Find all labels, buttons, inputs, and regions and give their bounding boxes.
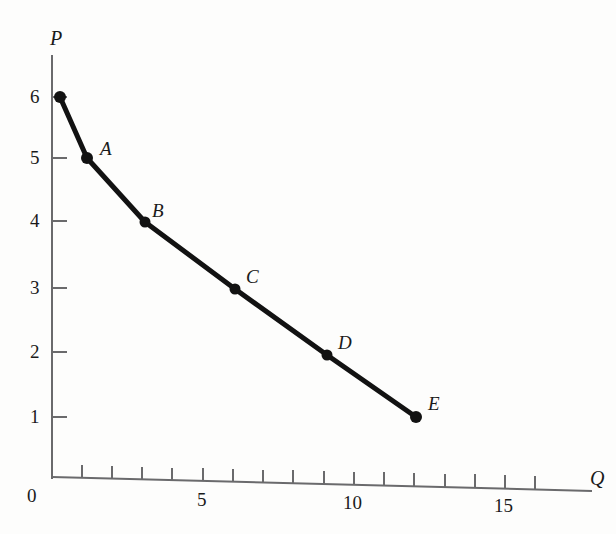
point-label-d: D bbox=[338, 333, 352, 352]
y-tick-label-2: 2 bbox=[30, 342, 40, 361]
y-axis-title: P bbox=[50, 28, 62, 48]
y-tick-label-6: 6 bbox=[30, 87, 40, 106]
data-point-a bbox=[81, 152, 93, 164]
x-tick-label-10: 10 bbox=[343, 493, 362, 512]
chart-canvas bbox=[0, 0, 616, 534]
x-axis-line bbox=[52, 477, 592, 491]
x-axis-title: Q bbox=[590, 468, 604, 488]
y-tick-label-1: 1 bbox=[30, 407, 40, 426]
data-point-c bbox=[230, 284, 241, 295]
y-tick-label-4: 4 bbox=[30, 211, 40, 230]
data-point-origin bbox=[54, 91, 66, 103]
x-axis-ticks bbox=[82, 465, 535, 489]
x-tick-label-15: 15 bbox=[494, 496, 513, 515]
point-label-e: E bbox=[428, 394, 440, 413]
y-tick-label-3: 3 bbox=[30, 278, 40, 297]
point-label-a: A bbox=[100, 139, 112, 158]
y-axis-ticks bbox=[52, 97, 67, 417]
data-point-b bbox=[140, 217, 151, 228]
data-point-e bbox=[410, 411, 422, 423]
origin-tick-label-0: 0 bbox=[27, 486, 37, 505]
demand-curve-figure: P Q 6 5 4 3 2 1 0 5 10 15 A B C D E bbox=[0, 0, 616, 534]
demand-curve-line bbox=[60, 97, 416, 417]
point-label-c: C bbox=[246, 267, 259, 286]
x-tick-label-5: 5 bbox=[197, 490, 207, 509]
y-tick-label-5: 5 bbox=[30, 148, 40, 167]
data-point-d bbox=[322, 350, 333, 361]
point-label-b: B bbox=[152, 201, 164, 220]
